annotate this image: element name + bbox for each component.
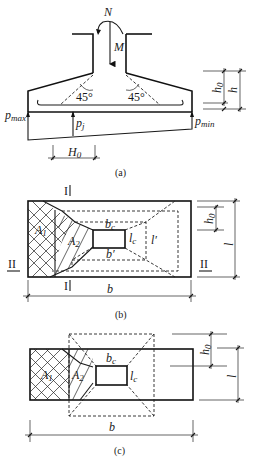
h0-dim-label-a: h0: [210, 82, 225, 93]
figure-b-plan: A1 A2 bc lc l′ b′ I I II II b l h0 (b): [0, 184, 240, 321]
caption-c: (c): [114, 445, 125, 457]
b-dim-label-b: b: [107, 282, 113, 296]
h0-dim-label-c: h0: [198, 344, 213, 355]
A1-label-b: A1: [34, 223, 47, 238]
h0-dim-label-b: h0: [202, 213, 217, 224]
section-I-top: I: [64, 184, 68, 198]
A1-label-c: A1: [40, 368, 53, 383]
angle-left-label: 45°: [76, 90, 93, 104]
angle-right-label: 45°: [128, 90, 145, 104]
b-prime-label: b′: [106, 247, 115, 261]
h-dim-label-a: h: [226, 87, 240, 93]
lc-label-c: lc: [130, 369, 137, 384]
bc-label-b: bc: [105, 217, 115, 232]
load-N-label: N: [103, 5, 113, 19]
A2-label-c: A2: [71, 368, 84, 383]
b-dim-label-c: b: [109, 420, 115, 434]
p-max-label: pmax: [4, 108, 26, 123]
lc-label-b: lc: [129, 231, 136, 246]
section-II-right: II: [200, 257, 208, 271]
p-min-label: pmin: [194, 114, 215, 129]
p-j-label: pj: [75, 116, 85, 131]
section-II-left: II: [8, 257, 16, 271]
moment-M-label: M: [113, 40, 125, 54]
H0-label: H0: [67, 145, 82, 160]
area-A1-hatch: [0, 201, 108, 277]
foundation-punching-diagram: 45° 45° N M pmax pmin pj H0 h0 h (a): [0, 0, 253, 466]
l-dim-label-b: l: [222, 242, 236, 246]
caption-a: (a): [115, 167, 126, 179]
A2-label-b: A2: [67, 234, 80, 249]
figure-c-plan: A1 A2 bc lc b h0 l (c): [0, 331, 244, 457]
l-dim-label-c: l: [225, 374, 239, 378]
bc-label-c: bc: [106, 351, 116, 366]
caption-b: (b): [115, 309, 127, 321]
l-prime-label: l′: [151, 233, 157, 247]
section-I-bottom: I: [64, 279, 68, 293]
figure-a-section: 45° 45° N M pmax pmin pj H0 h0 h (a): [4, 5, 246, 179]
